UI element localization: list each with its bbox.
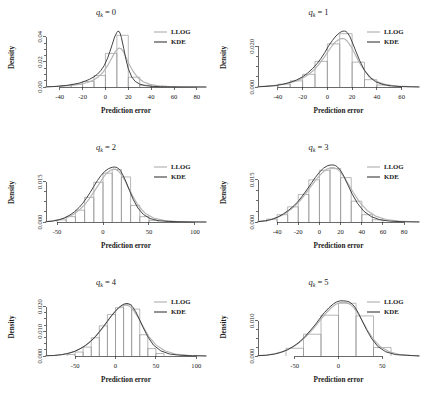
panel-title: qk = 1 xyxy=(308,7,328,18)
legend-label-kde: KDE xyxy=(171,38,186,45)
histogram-outline xyxy=(48,35,174,87)
y-axis-label: Density xyxy=(8,46,16,70)
legend-label-kde: KDE xyxy=(384,308,399,315)
x-tick-label: 0 xyxy=(101,228,105,235)
x-axis-label: Prediction error xyxy=(314,107,365,115)
y-axis-label: Density xyxy=(220,181,228,205)
x-tick-label: -40 xyxy=(273,228,282,235)
x-tick-label: 60 xyxy=(380,228,387,235)
panel-qk-0: qk = 0-40-20020406080Prediction error0.0… xyxy=(0,0,212,135)
x-tick-label: -50 xyxy=(290,362,299,369)
panel-title: qk = 2 xyxy=(96,142,116,153)
y-axis-label: Density xyxy=(220,46,228,70)
legend-label-kde: KDE xyxy=(384,38,399,45)
y-tick-label: 0.000 xyxy=(36,348,43,364)
panel-title: qk = 0 xyxy=(96,7,116,18)
x-axis-label: Prediction error xyxy=(101,242,152,250)
y-axis-label: Density xyxy=(8,315,16,339)
x-tick-label: -40 xyxy=(273,93,282,100)
panel-title: qk = 5 xyxy=(308,277,328,288)
x-tick-label: 80 xyxy=(194,93,201,100)
x-tick-label: 0 xyxy=(318,228,322,235)
y-axis-label: Density xyxy=(8,181,16,205)
x-tick-label: 60 xyxy=(398,93,405,100)
x-tick-label: 100 xyxy=(190,228,201,235)
panel-qk-2: qk = 2-50050100Prediction error0.0000.01… xyxy=(0,135,212,270)
y-tick-label: 0.000 xyxy=(248,79,255,95)
multi-panel-density-figure: qk = 0-40-20020406080Prediction error0.0… xyxy=(0,0,425,404)
y-tick-label: 0.015 xyxy=(248,172,255,188)
x-tick-label: -20 xyxy=(78,93,87,100)
x-tick-label: 0 xyxy=(114,362,118,369)
x-tick-label: 20 xyxy=(349,93,356,100)
x-axis-label: Prediction error xyxy=(101,376,152,384)
x-tick-label: 20 xyxy=(337,228,344,235)
x-tick-label: -20 xyxy=(294,228,303,235)
legend-label-llog: LLOG xyxy=(384,163,404,170)
legend-label-llog: LLOG xyxy=(171,163,191,170)
x-axis-label: Prediction error xyxy=(314,376,365,384)
x-tick-label: 0 xyxy=(326,93,330,100)
x-tick-label: -50 xyxy=(53,228,62,235)
y-tick-label: 0.00 xyxy=(36,81,43,93)
panel-title: qk = 4 xyxy=(96,277,117,288)
legend-label-kde: KDE xyxy=(171,173,186,180)
panel-title: qk = 3 xyxy=(308,142,328,153)
x-tick-label: 80 xyxy=(401,228,408,235)
x-tick-label: 0 xyxy=(104,93,108,100)
legend-label-llog: LLOG xyxy=(171,298,191,305)
y-tick-label: 0.04 xyxy=(36,30,43,42)
x-tick-label: 50 xyxy=(153,362,160,369)
panel-qk-4: qk = 4-50050100Prediction error0.0000.01… xyxy=(0,270,212,404)
x-tick-label: -50 xyxy=(71,362,80,369)
x-tick-label: 50 xyxy=(146,228,153,235)
y-tick-label: 0.020 xyxy=(248,38,255,54)
y-tick-label: 0.010 xyxy=(248,313,255,329)
y-tick-label: 0.010 xyxy=(36,323,43,339)
y-tick-label: 0.000 xyxy=(248,214,255,230)
x-tick-label: 40 xyxy=(148,93,155,100)
y-tick-label: 0.020 xyxy=(36,299,43,315)
density-curve-llog xyxy=(46,48,206,87)
x-axis-label: Prediction error xyxy=(314,242,365,250)
x-tick-label: 20 xyxy=(125,93,132,100)
x-tick-label: 60 xyxy=(171,93,178,100)
legend-label-kde: KDE xyxy=(171,308,186,315)
legend-label-llog: LLOG xyxy=(171,28,191,35)
y-tick-label: 0.000 xyxy=(248,348,255,364)
panel-qk-3: qk = 3-40-20020406080Prediction error0.0… xyxy=(212,135,425,270)
legend-label-kde: KDE xyxy=(384,173,399,180)
x-tick-label: -20 xyxy=(298,93,307,100)
y-tick-label: 0.000 xyxy=(36,214,43,230)
density-curve-llog xyxy=(258,38,419,86)
x-tick-label: 40 xyxy=(359,228,366,235)
legend-label-llog: LLOG xyxy=(384,28,404,35)
x-tick-label: 0 xyxy=(337,362,341,369)
x-tick-label: 50 xyxy=(379,362,386,369)
x-tick-label: -40 xyxy=(55,93,64,100)
histogram-outline xyxy=(286,303,391,356)
y-tick-label: 0.015 xyxy=(36,174,43,190)
x-tick-label: 100 xyxy=(191,362,202,369)
x-axis-label: Prediction error xyxy=(101,107,152,115)
y-tick-label: 0.02 xyxy=(36,56,43,68)
y-axis-label: Density xyxy=(220,315,228,339)
panel-qk-1: qk = 1-40-200204060Prediction error0.000… xyxy=(212,0,425,135)
panel-qk-5: qk = 5-50050Prediction error0.0000.010De… xyxy=(212,270,425,404)
legend-label-llog: LLOG xyxy=(384,298,404,305)
x-tick-label: 40 xyxy=(374,93,381,100)
